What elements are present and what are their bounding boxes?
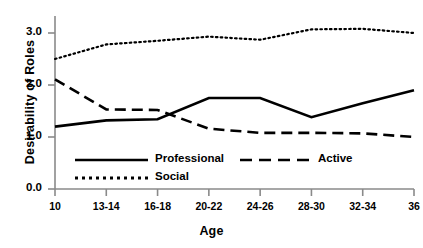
y-axis-tick-label: 1.0 [8, 129, 42, 141]
chart-series-group [55, 29, 414, 137]
y-axis-title: Desirability of Roles [23, 22, 37, 182]
x-axis-tick-label: 16-18 [130, 200, 186, 212]
x-axis-tick-label: 24-26 [232, 200, 288, 212]
x-axis-tick-label: 28-30 [283, 200, 339, 212]
series-line-social [55, 29, 414, 59]
x-axis-ticks [55, 189, 414, 196]
x-axis-tick-label: 10 [27, 200, 83, 212]
x-axis-tick-label: 13-14 [78, 200, 134, 212]
series-line-active [55, 79, 414, 137]
y-axis-tick-label: 0.0 [8, 181, 42, 193]
y-axis-tick-label: 2.0 [8, 77, 42, 89]
x-axis-tick-label: 36 [386, 200, 423, 212]
y-axis-tick-label: 3.0 [8, 25, 42, 37]
x-axis-title: Age [0, 224, 423, 238]
legend-label-professional: Professional [155, 152, 224, 164]
x-axis-tick-label: 20-22 [181, 200, 237, 212]
chart-container: Desirability of Roles Age 0.01.02.03.0 1… [0, 0, 423, 248]
series-line-professional [55, 90, 414, 126]
legend-label-social: Social [155, 170, 189, 182]
legend-label-active: Active [318, 152, 353, 164]
y-axis-ticks [48, 33, 55, 189]
x-axis-tick-label: 32-34 [335, 200, 391, 212]
